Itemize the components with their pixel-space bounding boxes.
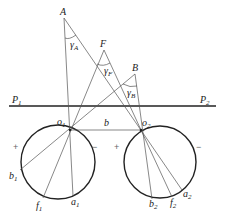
label-A: A	[59, 6, 67, 17]
label-a2: a2	[183, 188, 192, 201]
sign-c2-right: −	[196, 142, 201, 152]
label-f1: f1	[36, 200, 42, 213]
label-F: F	[99, 38, 107, 49]
label-b1: b1	[9, 170, 18, 183]
ray-B-b1	[20, 74, 135, 170]
label-b: b	[104, 117, 109, 128]
diagram-canvas: A F B γA γF γB P1 P2 o1 o2 b b1 f1 a1 b2…	[0, 0, 226, 217]
sign-c1-right: −	[92, 142, 97, 152]
point-o1	[69, 129, 72, 132]
ray-B-b2	[135, 74, 152, 199]
sign-c1-left: +	[13, 142, 18, 152]
label-o2: o2	[142, 117, 151, 130]
label-P2: P2	[199, 94, 210, 107]
label-f2: f2	[170, 197, 177, 210]
label-o1: o1	[57, 116, 66, 129]
label-a1: a1	[71, 196, 80, 209]
sign-c2-left: +	[114, 142, 119, 152]
label-B: B	[132, 62, 138, 73]
geometry-diagram: A F B γA γF γB P1 P2 o1 o2 b b1 f1 a1 b2…	[0, 0, 226, 217]
point-o2	[140, 129, 143, 132]
label-b2: b2	[149, 198, 158, 211]
label-P1: P1	[11, 94, 22, 107]
label-gamma-A: γA	[70, 39, 79, 52]
label-gamma-B: γB	[127, 87, 136, 100]
ray-F-f1	[43, 50, 104, 198]
